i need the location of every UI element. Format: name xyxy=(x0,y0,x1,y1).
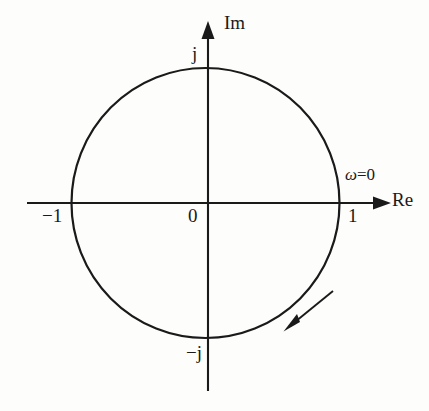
unit-circle-plot xyxy=(0,0,429,411)
tick-label-negative-one: −1 xyxy=(42,206,62,225)
tick-label-positive-j: j xyxy=(192,44,197,63)
origin-label: 0 xyxy=(188,206,198,225)
tick-label-positive-one: 1 xyxy=(348,206,358,225)
omega-value: =0 xyxy=(357,165,375,184)
complex-plane-figure: Im Re j −j −1 1 0 ω=0 xyxy=(0,0,429,411)
real-axis-arrowhead xyxy=(373,197,391,210)
omega-zero-annotation: ω=0 xyxy=(345,166,375,183)
omega-symbol: ω xyxy=(345,165,357,184)
imaginary-axis-arrowhead xyxy=(202,21,215,39)
imaginary-axis-label: Im xyxy=(224,13,245,32)
real-axis-label: Re xyxy=(392,190,413,209)
direction-arrow xyxy=(284,291,334,332)
tick-label-negative-j: −j xyxy=(186,343,202,362)
